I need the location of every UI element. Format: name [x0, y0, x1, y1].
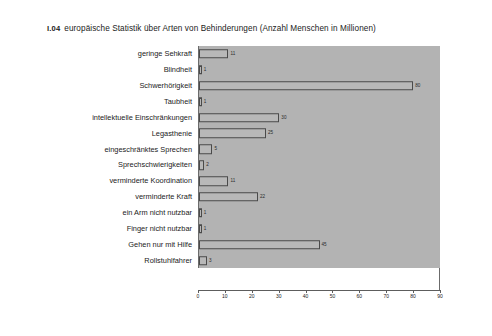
figure-caption-text: europäische Statistik über Arten von Beh…: [64, 24, 376, 33]
x-axis-tick-label: 0: [197, 294, 200, 299]
bar: [199, 192, 258, 202]
category-label: verminderte Kraft: [55, 193, 198, 200]
bar-value-label: 30: [281, 115, 286, 120]
chart-row: Gehen nur mit Hilfe45: [55, 237, 440, 253]
chart-row: Blindheit1: [55, 62, 440, 78]
chart-row: ein Arm nicht nutzbar1: [55, 205, 440, 221]
bar-value-label: 2: [206, 163, 209, 168]
x-axis-tick-label: 80: [410, 294, 416, 299]
x-axis-tick-label: 70: [383, 294, 389, 299]
bar-value-label: 3: [209, 258, 212, 263]
category-label: Gehen nur mit Hilfe: [55, 241, 198, 248]
chart-row: Rollstuhlfahrer3: [55, 253, 440, 269]
bar: [199, 129, 266, 139]
bar: [199, 176, 228, 186]
figure-number: I.04: [47, 24, 60, 33]
chart-row: Taubheit1: [55, 94, 440, 110]
category-label: geringe Sehkraft: [55, 50, 198, 57]
bar-chart: geringe Sehkraft11Blindheit1Schwerhörigk…: [55, 46, 440, 316]
bar-track: 3: [198, 253, 440, 269]
bar: [199, 208, 202, 218]
bar-value-label: 1: [204, 99, 207, 104]
bar: [199, 81, 413, 91]
bar-track: 1: [198, 94, 440, 110]
bar-track: 1: [198, 62, 440, 78]
bar-track: 2: [198, 157, 440, 173]
bar: [199, 256, 207, 266]
chart-row: geringe Sehkraft11: [55, 46, 440, 62]
bar-track: 30: [198, 110, 440, 126]
bar-track: 1: [198, 221, 440, 237]
chart-row: Sprechschwierigkeiten2: [55, 157, 440, 173]
bar-value-label: 1: [204, 226, 207, 231]
bar: [199, 145, 212, 155]
bar-track: 11: [198, 173, 440, 189]
x-axis-tick-label: 50: [330, 294, 336, 299]
x-axis-tick-label: 20: [249, 294, 255, 299]
bar: [199, 224, 202, 234]
chart-row: verminderte Kraft22: [55, 189, 440, 205]
bar: [199, 49, 228, 59]
category-label: Taubheit: [55, 98, 198, 105]
bar: [199, 65, 202, 75]
bar-track: 1: [198, 205, 440, 221]
bar-track: 11: [198, 46, 440, 62]
bar-track: 22: [198, 189, 440, 205]
x-axis-tick-label: 40: [303, 294, 309, 299]
bar: [199, 97, 202, 107]
bar-track: 5: [198, 141, 440, 157]
bar-value-label: 1: [204, 68, 207, 73]
bar-value-label: 1: [204, 211, 207, 216]
category-label: Schwerhörigkeit: [55, 82, 198, 89]
category-label: intellektuelle Einschränkungen: [55, 114, 198, 121]
bar-value-label: 25: [268, 131, 273, 136]
bar-value-label: 22: [260, 195, 265, 200]
chart-row: Finger nicht nutzbar1: [55, 221, 440, 237]
bar-track: 25: [198, 125, 440, 141]
chart-rows: geringe Sehkraft11Blindheit1Schwerhörigk…: [55, 46, 440, 290]
bar: [199, 240, 320, 250]
bar-value-label: 11: [230, 179, 235, 184]
category-label: ein Arm nicht nutzbar: [55, 209, 198, 216]
category-label: Legasthenie: [55, 130, 198, 137]
x-axis-line: [198, 290, 440, 291]
bar-track: 45: [198, 237, 440, 253]
x-axis: 0102030405060708090: [198, 290, 440, 316]
chart-row: eingeschränktes Sprechen5: [55, 141, 440, 157]
chart-row: Legasthenie25: [55, 125, 440, 141]
bar: [199, 113, 279, 123]
bar-value-label: 80: [415, 83, 420, 88]
bar-value-label: 5: [214, 147, 217, 152]
category-label: eingeschränktes Sprechen: [55, 146, 198, 153]
chart-row: verminderte Koordination11: [55, 173, 440, 189]
chart-row: Schwerhörigkeit80: [55, 78, 440, 94]
bar-value-label: 11: [230, 52, 235, 57]
chart-row: intellektuelle Einschränkungen30: [55, 110, 440, 126]
x-axis-tick-label: 10: [222, 294, 228, 299]
category-label: Rollstuhlfahrer: [55, 257, 198, 264]
bar-value-label: 45: [322, 242, 327, 247]
category-label: verminderte Koordination: [55, 177, 198, 184]
x-axis-tick-label: 90: [437, 294, 443, 299]
category-label: Blindheit: [55, 66, 198, 73]
figure-caption: I.04europäische Statistik über Arten von…: [47, 24, 467, 33]
category-label: Sprechschwierigkeiten: [55, 161, 198, 168]
x-axis-tick-label: 30: [276, 294, 282, 299]
figure-container: I.04europäische Statistik über Arten von…: [0, 0, 492, 336]
category-label: Finger nicht nutzbar: [55, 225, 198, 232]
bar: [199, 160, 204, 170]
bar-track: 80: [198, 78, 440, 94]
x-axis-tick-label: 60: [357, 294, 363, 299]
